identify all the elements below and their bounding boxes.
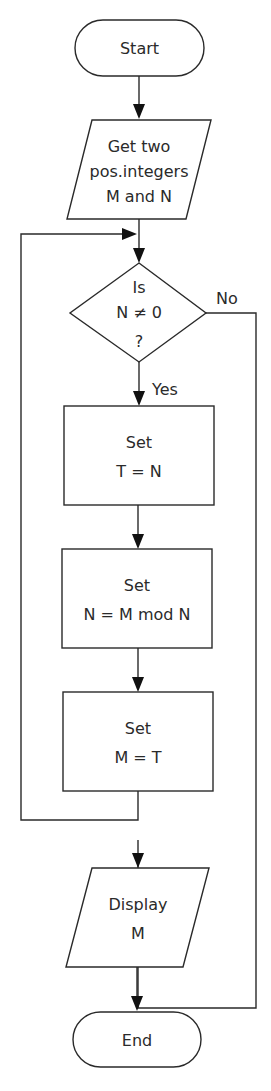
yes-branch-connector: Yes <box>133 362 178 406</box>
input-node: Get two pos.integers M and N <box>67 120 211 219</box>
output-node: Display M <box>66 868 209 967</box>
arrowhead-icon <box>132 853 144 868</box>
flowchart: Start Get two pos.integers M and N Is N … <box>0 0 271 1091</box>
arrowhead-icon <box>132 677 144 692</box>
set-n-node: Set N = M mod N <box>62 549 212 648</box>
arrowhead-icon <box>122 228 137 240</box>
set-t-node: Set T = N <box>64 406 214 505</box>
decision-label-line3: ? <box>135 332 144 351</box>
input-label-line1: Get two <box>108 137 171 156</box>
set-n-label-line1: Set <box>124 576 150 595</box>
decision-label-line1: Is <box>132 278 145 297</box>
set-m-label-line1: Set <box>125 719 151 738</box>
start-label: Start <box>120 39 159 58</box>
set-m-node: Set M = T <box>63 692 213 791</box>
arrowhead-icon <box>132 534 144 549</box>
set-n-label-line2: N = M mod N <box>83 605 190 624</box>
decision-node: Is N ≠ 0 ? <box>70 263 206 362</box>
arrow-start-to-input <box>133 76 145 119</box>
arrow-no-to-output <box>132 840 144 868</box>
arrow-input-to-decision <box>133 219 145 263</box>
output-label-line1: Display <box>109 895 168 914</box>
no-label: No <box>216 289 238 308</box>
end-label: End <box>122 1031 152 1050</box>
set-t-label-line1: Set <box>126 433 152 452</box>
input-label-line2: pos.integers <box>90 162 189 181</box>
arrowhead-icon <box>131 996 143 1011</box>
output-label-line2: M <box>131 924 145 943</box>
yes-label: Yes <box>151 380 178 399</box>
input-label-line3: M and N <box>106 187 172 206</box>
arrowhead-icon <box>133 248 145 263</box>
arrow-output-to-end <box>131 967 143 1011</box>
end-node: End <box>73 1012 201 1067</box>
set-t-label-line2: T = N <box>115 462 161 481</box>
start-node: Start <box>75 20 204 76</box>
arrow-set-n-to-set-m <box>132 648 144 692</box>
arrowhead-icon <box>133 391 145 406</box>
arrow-set-t-to-set-n <box>132 505 144 549</box>
decision-label-line2: N ≠ 0 <box>116 303 162 322</box>
set-m-label-line2: M = T <box>114 748 161 767</box>
arrowhead-icon <box>133 104 145 119</box>
